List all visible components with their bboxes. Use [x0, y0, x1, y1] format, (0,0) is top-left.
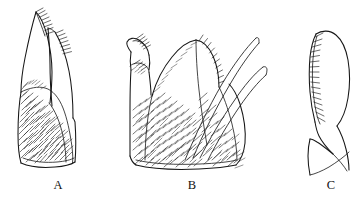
- comb-row-a1: [37, 8, 55, 34]
- panel-label-a: A: [46, 178, 70, 193]
- figure-drawing: [0, 0, 364, 204]
- shoulder-setae-a: [21, 80, 46, 90]
- figure-plate: A B C: [0, 0, 364, 204]
- panel-label-b: B: [180, 178, 204, 193]
- shoulder-setae-b: [154, 42, 197, 92]
- panel-label-c: C: [319, 178, 343, 193]
- comb-row-b1: [136, 34, 151, 49]
- panel-c-drawing: [308, 31, 350, 175]
- panel-b-drawing: [127, 34, 267, 169]
- panel-a-drawing: [18, 8, 76, 167]
- setal-brush-a: [19, 92, 73, 163]
